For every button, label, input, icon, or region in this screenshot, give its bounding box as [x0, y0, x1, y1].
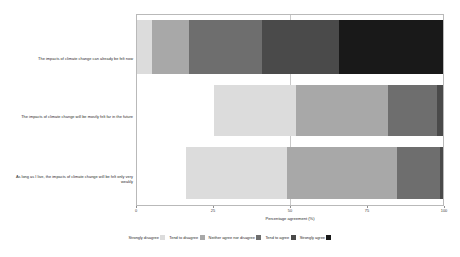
bar-row: [137, 85, 443, 136]
bar-row: [137, 147, 443, 199]
bar-segment: [296, 85, 388, 136]
x-axis-title: Percentage agreement (%): [136, 216, 444, 221]
legend-swatch: [256, 235, 261, 240]
bar-segment: [189, 20, 262, 74]
chart-legend: Strongly disagreeTend to disagreeNeither…: [0, 235, 460, 240]
legend-label: Strongly disagree: [129, 235, 159, 240]
legend-label: Tend to disagree: [169, 235, 198, 240]
bar-segment: [440, 147, 443, 199]
legend-item[interactable]: Tend to agree: [265, 235, 295, 240]
bar-segment: [397, 147, 440, 199]
x-axis-tick-label: 25: [211, 208, 215, 213]
legend-item[interactable]: Strongly disagree: [129, 235, 166, 240]
legend-item[interactable]: Neither agree nor disagree: [209, 235, 262, 240]
bar-segment: [186, 147, 287, 199]
bar-segment: [339, 20, 443, 74]
x-axis-tick-label: 50: [288, 208, 292, 213]
bar-segment: [437, 85, 443, 136]
legend-swatch: [200, 235, 205, 240]
bar-segment: [137, 20, 152, 74]
diverging-stacked-bar-chart: The impacts of climate change can alread…: [0, 0, 460, 257]
bar-offset-spacer: [137, 85, 214, 136]
category-label: As long as I live, the impacts of climat…: [4, 174, 133, 184]
bar-segment: [152, 20, 189, 74]
legend-swatch: [160, 235, 165, 240]
legend-item[interactable]: Tend to disagree: [169, 235, 204, 240]
bar-segment: [262, 20, 339, 74]
legend-swatch: [291, 235, 296, 240]
legend-label: Strongly agree: [300, 235, 325, 240]
legend-swatch: [326, 235, 331, 240]
category-label-group: The impacts of climate change can alread…: [4, 14, 135, 206]
plot-area: [137, 15, 443, 205]
plot-panel: [136, 14, 444, 206]
bar-offset-spacer: [137, 147, 186, 199]
bar-segment: [287, 147, 397, 199]
bar-segment: [214, 85, 297, 136]
category-label: The impacts of climate change will be mo…: [4, 114, 133, 119]
category-label: The impacts of climate change can alread…: [4, 56, 133, 61]
x-axis-tick-label: 100: [441, 208, 448, 213]
x-axis: 0255075100: [136, 206, 444, 216]
bar-row: [137, 20, 443, 74]
legend-item[interactable]: Strongly agree: [300, 235, 332, 240]
x-axis-tick-label: 0: [135, 208, 137, 213]
x-axis-tick-label: 75: [365, 208, 369, 213]
bar-segment: [388, 85, 437, 136]
legend-label: Neither agree nor disagree: [209, 235, 255, 240]
legend-label: Tend to agree: [265, 235, 289, 240]
